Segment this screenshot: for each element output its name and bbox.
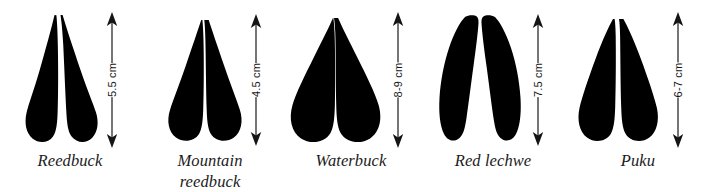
specimen-reedbuck: 5.5 cm Reedbuck bbox=[0, 0, 140, 192]
species-label-waterbuck: Waterbuck bbox=[280, 150, 422, 171]
species-label-puku: Puku bbox=[564, 150, 712, 171]
species-label-mountain-reedbuck: Mountain reedbuck bbox=[140, 150, 280, 192]
track-area-red-lechwe: 7.5 cm bbox=[422, 0, 564, 148]
species-label-red-lechwe: Red lechwe bbox=[422, 150, 564, 171]
scale-label-red-lechwe: 7.5 cm bbox=[532, 63, 545, 97]
species-label-waterbuck-line1: Waterbuck bbox=[316, 151, 387, 170]
species-label-mountain-reedbuck-line1: Mountain bbox=[178, 151, 243, 170]
hoof-print-puku bbox=[574, 16, 664, 146]
hoof-print-mountain-reedbuck bbox=[162, 18, 246, 143]
track-area-puku: 6-7 cm bbox=[564, 0, 712, 148]
species-label-puku-line1: Puku bbox=[621, 151, 655, 170]
scale-label-mountain-reedbuck: 4.5 cm bbox=[250, 63, 263, 97]
species-label-reedbuck-line1: Reedbuck bbox=[38, 151, 103, 170]
hoof-print-chart: 5.5 cm Reedbuck 4.5 cm Mountain reedbuck bbox=[0, 0, 712, 192]
track-area-waterbuck: 8-9 cm bbox=[280, 0, 422, 148]
hoof-print-reedbuck bbox=[18, 12, 102, 146]
species-label-reedbuck: Reedbuck bbox=[0, 150, 140, 171]
hoof-print-waterbuck bbox=[288, 16, 382, 146]
specimen-puku: 6-7 cm Puku bbox=[564, 0, 712, 192]
hoof-print-red-lechwe bbox=[434, 14, 526, 146]
species-label-mountain-reedbuck-line2: reedbuck bbox=[140, 171, 280, 192]
track-area-mountain-reedbuck: 4.5 cm bbox=[140, 0, 280, 148]
specimen-waterbuck: 8-9 cm Waterbuck bbox=[280, 0, 422, 192]
scale-label-reedbuck: 5.5 cm bbox=[106, 63, 119, 97]
specimen-mountain-reedbuck: 4.5 cm Mountain reedbuck bbox=[140, 0, 280, 192]
specimen-red-lechwe: 7.5 cm Red lechwe bbox=[422, 0, 564, 192]
scale-label-puku: 6-7 cm bbox=[672, 63, 685, 98]
track-area-reedbuck: 5.5 cm bbox=[0, 0, 140, 148]
scale-label-waterbuck: 8-9 cm bbox=[392, 63, 405, 98]
species-label-red-lechwe-line1: Red lechwe bbox=[455, 151, 532, 170]
